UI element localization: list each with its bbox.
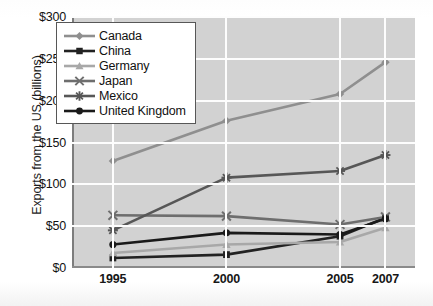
legend-item[interactable]: Japan [63,73,186,88]
legend-item[interactable]: Germany [63,58,186,73]
x-tick-label: 2005 [327,272,354,286]
gridline-horizontal [72,142,415,144]
legend-label: Canada [99,29,142,43]
chart-figure: Exports from the US (billions) $0$50$100… [0,0,433,306]
series-line [113,215,386,224]
legend-swatch-x-icon [63,74,96,88]
legend-swatch-circle-icon [63,104,96,118]
legend-label: Germany [99,59,149,73]
legend-item[interactable]: China [63,43,186,58]
gridline-horizontal [72,183,415,185]
chart-legend: CanadaChinaGermanyJapanMexicoUnited King… [56,22,196,124]
marker-asterisk [75,91,85,101]
legend-item[interactable]: Canada [63,28,186,43]
legend-swatch-asterisk-icon [63,89,96,103]
y-tick-label: $0 [6,261,66,275]
legend-swatch-square-icon [63,44,96,58]
x-tick-label: 2007 [372,272,399,286]
gridline-vertical [384,17,386,268]
legend-item[interactable]: Mexico [63,88,186,103]
marker-circle [76,107,83,114]
y-tick-label: $150 [6,136,66,150]
gridline-vertical [225,17,227,268]
legend-label: Mexico [99,89,138,103]
x-tick-label: 2000 [213,272,240,286]
legend-swatch-diamond-icon [63,29,96,43]
legend-swatch-triangle-icon [63,59,96,73]
marker-square [76,47,82,53]
legend-label: Japan [99,74,132,88]
gridline-horizontal [72,225,415,227]
legend-label: China [99,44,131,58]
y-tick-label: $50 [6,219,66,233]
marker-diamond [76,32,84,40]
series-china [109,214,388,261]
legend-label: United Kingdom [99,104,186,118]
gridline-horizontal [72,16,415,18]
x-tick-label: 1995 [99,272,126,286]
gridline-vertical [339,17,341,268]
y-tick-label: $100 [6,177,66,191]
legend-item[interactable]: United Kingdom [63,103,186,118]
